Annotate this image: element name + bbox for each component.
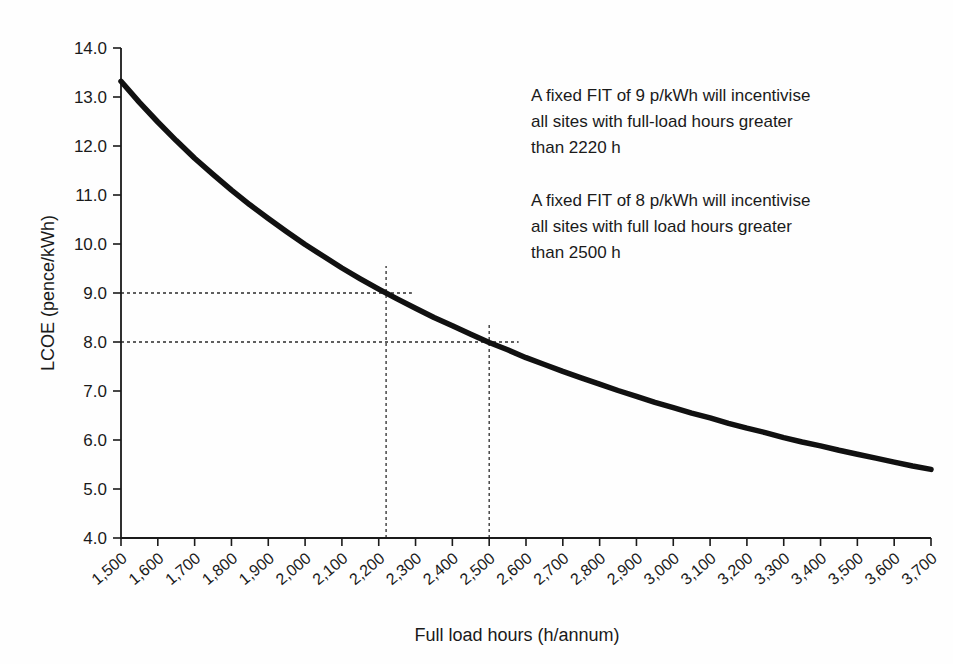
x-tick-label: 3,100	[677, 549, 719, 588]
x-tick-label: 2,100	[309, 549, 351, 588]
x-tick-label: 1,500	[88, 549, 130, 588]
x-tick-label: 2,900	[604, 549, 646, 588]
y-tick-label: 9.0	[83, 284, 107, 303]
annotation-fit9-line-2: all sites with full-load hours greater	[531, 109, 810, 135]
x-tick-label: 2,200	[346, 549, 388, 588]
x-tick-label: 3,700	[898, 549, 940, 588]
y-tick-label: 6.0	[83, 431, 107, 450]
x-tick-label: 1,600	[125, 549, 167, 588]
y-tick-label: 8.0	[83, 333, 107, 352]
y-tick-label: 7.0	[83, 382, 107, 401]
x-tick-label: 3,500	[825, 549, 867, 588]
annotation-fit9-line-3: than 2220 h	[531, 135, 810, 161]
x-tick-label: 1,900	[236, 549, 278, 588]
x-tick-label: 1,800	[199, 549, 241, 588]
annotation-fit8-line-3: than 2500 h	[531, 240, 810, 266]
annotation-fit8-line-2: all sites with full load hours greater	[531, 214, 810, 240]
x-tick-label: 3,300	[751, 549, 793, 588]
x-tick-label: 2,300	[383, 549, 425, 588]
y-tick-label: 13.0	[74, 88, 107, 107]
y-tick-label: 4.0	[83, 529, 107, 548]
annotation-fit9: A fixed FIT of 9 p/kWh will incentivise …	[531, 83, 810, 161]
y-tick-label: 14.0	[74, 39, 107, 58]
annotation-fit8: A fixed FIT of 8 p/kWh will incentivise …	[531, 188, 810, 266]
x-tick-label: 3,400	[788, 549, 830, 588]
x-tick-label: 2,400	[420, 549, 462, 588]
lcoe-chart-figure: LCOE (pence/kWh) Full load hours (h/annu…	[0, 0, 953, 664]
annotation-fit9-line-1: A fixed FIT of 9 p/kWh will incentivise	[531, 83, 810, 109]
x-tick-label: 3,000	[641, 549, 683, 588]
x-tick-label: 2,700	[530, 549, 572, 588]
x-tick-label: 2,600	[493, 549, 535, 588]
y-tick-label: 5.0	[83, 480, 107, 499]
y-axis-title: LCOE (pence/kWh)	[38, 215, 58, 371]
y-tick-label: 11.0	[75, 186, 107, 205]
x-tick-label: 1,700	[162, 549, 204, 588]
y-tick-label: 12.0	[74, 137, 107, 156]
y-tick-label: 10.0	[74, 235, 107, 254]
x-tick-label: 2,800	[567, 549, 609, 588]
annotation-fit8-line-1: A fixed FIT of 8 p/kWh will incentivise	[531, 188, 810, 214]
x-tick-label: 2,500	[457, 549, 499, 588]
x-tick-label: 3,200	[714, 549, 756, 588]
x-tick-label: 2,000	[272, 549, 314, 588]
x-axis-title: Full load hours (h/annum)	[414, 625, 619, 645]
x-tick-label: 3,600	[862, 549, 904, 588]
